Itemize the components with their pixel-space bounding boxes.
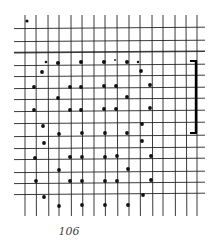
- grid-horizontal-lines: [14, 27, 205, 194]
- dot: [57, 132, 61, 136]
- page-number: 106: [56, 225, 82, 238]
- grid-horizontal-line: [14, 51, 205, 52]
- dot: [149, 154, 153, 158]
- dot: [126, 167, 130, 171]
- dot-pattern: [25, 19, 153, 208]
- dot: [80, 155, 84, 159]
- grid-vertical-line: [117, 15, 118, 216]
- dot: [140, 122, 144, 126]
- dot: [148, 83, 152, 87]
- grid-vertical-line: [82, 15, 83, 216]
- dot: [80, 203, 84, 207]
- dot: [80, 179, 84, 183]
- grid-vertical-line: [152, 15, 153, 216]
- grid-horizontal-line: [14, 171, 205, 172]
- grid-horizontal-line: [14, 193, 205, 194]
- grid-vertical-lines: [25, 15, 197, 216]
- grid-horizontal-line: [14, 40, 205, 41]
- dot: [42, 195, 46, 199]
- dot: [42, 141, 46, 145]
- dot: [57, 204, 61, 208]
- grid-horizontal-line: [14, 110, 205, 111]
- dot: [34, 179, 38, 183]
- dot: [68, 108, 72, 112]
- dot: [32, 85, 36, 89]
- dot: [125, 60, 129, 64]
- grid-horizontal-line: [14, 87, 205, 88]
- dot: [79, 85, 83, 89]
- dot: [57, 168, 61, 172]
- dot: [125, 95, 129, 99]
- dot: [79, 108, 83, 112]
- grid-vertical-line: [186, 15, 187, 216]
- dot: [79, 60, 83, 64]
- dot: [68, 179, 72, 183]
- dot: [114, 59, 116, 61]
- dot: [103, 203, 107, 207]
- grid-horizontal-line: [14, 27, 205, 28]
- dot: [126, 203, 130, 207]
- dot: [102, 84, 106, 88]
- dot: [41, 124, 45, 128]
- dot: [40, 70, 44, 74]
- grid-horizontal-line: [14, 135, 205, 136]
- grid-horizontal-line: [14, 98, 205, 99]
- grid-horizontal-line: [14, 158, 205, 159]
- grid-horizontal-line: [14, 75, 205, 76]
- dot: [139, 69, 143, 73]
- dot: [114, 107, 118, 111]
- dot: [102, 107, 106, 111]
- dot: [45, 61, 48, 64]
- dot: [140, 139, 144, 143]
- dot: [103, 179, 107, 183]
- grid-vertical-line: [48, 15, 49, 216]
- dot: [149, 178, 153, 182]
- dot: [137, 61, 139, 63]
- dot: [68, 155, 72, 159]
- dot: [33, 156, 37, 160]
- grid-horizontal-line: [14, 122, 205, 123]
- dot: [103, 155, 107, 159]
- dot: [103, 131, 107, 135]
- dot: [114, 84, 118, 88]
- dot: [115, 179, 119, 183]
- dot: [56, 96, 60, 100]
- grid-horizontal-line: [14, 147, 205, 148]
- dot: [56, 61, 60, 65]
- dot: [115, 154, 119, 158]
- dot: [141, 193, 145, 197]
- dot: [80, 131, 84, 135]
- dot: [148, 106, 152, 110]
- dot-grid-figure: [0, 0, 217, 240]
- dot: [68, 85, 72, 89]
- grid-horizontal-line: [14, 64, 205, 65]
- dot: [102, 60, 106, 64]
- grid-horizontal-line: [14, 182, 205, 183]
- dot: [25, 19, 28, 22]
- dot: [125, 131, 129, 135]
- dot: [32, 108, 36, 112]
